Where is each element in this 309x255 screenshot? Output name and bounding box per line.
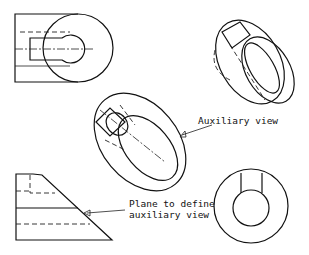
aux-outer-ellipse (76, 75, 205, 208)
side-view (16, 174, 112, 240)
leader-arrow-icon (180, 131, 186, 137)
plane-label-line2: auxiliary view (129, 209, 209, 220)
plane-leader-line (87, 210, 125, 213)
aux-slot-end (102, 108, 133, 139)
plane-callout: Plane to define auxiliary view (84, 198, 215, 220)
iso-outer-back (202, 8, 299, 116)
technical-drawing: Auxiliary view Plane to define auxiliary… (0, 0, 309, 255)
auxiliary-view-label: Auxiliary view (198, 115, 278, 126)
leader-line (182, 125, 212, 135)
front-view-outer-arc (43, 14, 78, 82)
end-outer-circle (214, 169, 288, 243)
iso-slot (222, 22, 250, 48)
end-inner-circle (233, 190, 269, 226)
end-view (214, 169, 288, 243)
plane-label-line1: Plane to define (129, 198, 215, 209)
auxiliary-view-callout: Auxiliary view (180, 115, 278, 137)
isometric-view (202, 8, 306, 116)
front-view (15, 14, 113, 82)
auxiliary-view (76, 75, 205, 208)
